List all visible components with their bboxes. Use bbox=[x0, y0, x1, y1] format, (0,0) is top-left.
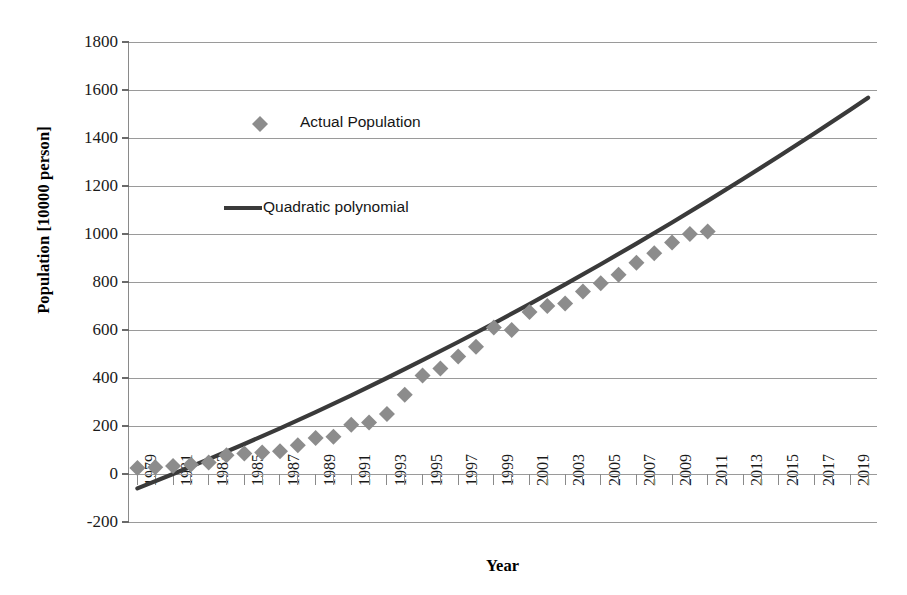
plot-area bbox=[0, 0, 907, 595]
series-actual-population-points bbox=[129, 224, 715, 476]
population-chart-figure: Population [10000 person] Year 180016001… bbox=[0, 0, 907, 595]
x-axis-tick-marks bbox=[137, 474, 868, 485]
y-axis-tick-marks bbox=[122, 42, 129, 522]
legend-label-quadratic-polynomial: Quadratic polynomial bbox=[263, 198, 409, 216]
legend-label-actual-population: Actual Population bbox=[300, 113, 421, 131]
